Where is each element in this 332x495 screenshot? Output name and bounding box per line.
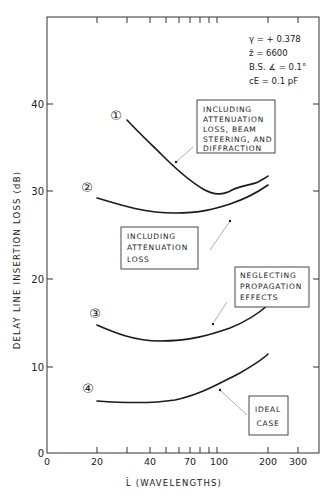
box3-line: EFFECTS [240, 293, 278, 302]
box3-line: NEGLECTING [240, 271, 297, 280]
y-axis-title: DELAY LINE INSERTION LOSS (dB) [12, 171, 22, 349]
param-gamma: γ = + 0.378 [249, 34, 301, 44]
x-tick-300: 300 [289, 456, 307, 467]
leader-arrowheads [175, 161, 231, 391]
x-tick-40: 40 [144, 456, 156, 467]
box1-line: INCLUDING [203, 105, 252, 114]
y-tick-30: 30 [31, 186, 44, 197]
x-tick-70: 70 [184, 456, 196, 467]
annotation-box-4: IDEAL CASE [249, 396, 288, 435]
x-tick-0: 0 [44, 456, 50, 467]
x-tick-200: 200 [259, 456, 277, 467]
marker-4: ④ [82, 381, 94, 396]
curve-3 [97, 305, 268, 341]
box1-line: STEERING, AND [203, 135, 272, 144]
marker-1: ① [110, 108, 122, 123]
box4-line: CASE [256, 419, 279, 428]
y-tick-40: 40 [31, 99, 44, 110]
box4-line: IDEAL [255, 405, 281, 414]
curve-2 [97, 185, 268, 213]
box2-line: ATTENUATION [127, 243, 188, 252]
parameter-legend: γ = + 0.378 ẑ = 6600 B.S. ∡ = 0.1° cE = … [249, 34, 306, 86]
chart: 10 20 30 40 0 0 20 40 70 100 200 300 DEL… [0, 0, 332, 495]
box1-line: ATTENUATION [203, 115, 264, 124]
annotation-box-3: NEGLECTING PROPAGATION EFFECTS [235, 267, 309, 307]
x-tick-labels: 0 20 40 70 100 200 300 [44, 456, 307, 467]
x-tick-20: 20 [91, 456, 103, 467]
param-beam-steering: B.S. ∡ = 0.1° [249, 62, 306, 72]
y-tick-20: 20 [31, 274, 44, 285]
box1-line: DIFFRACTION [203, 144, 262, 153]
y-tick-labels: 10 20 30 40 0 [31, 99, 44, 459]
y-tick-10: 10 [31, 362, 44, 373]
curve-markers: ① ② ③ ④ [81, 108, 122, 396]
curve-4 [97, 354, 268, 403]
param-z: ẑ = 6600 [249, 48, 288, 58]
x-axis-title: L̂ (WAVELENGTHS) [125, 477, 222, 488]
box2-line: INCLUDING [127, 232, 176, 241]
marker-2: ② [81, 180, 93, 195]
marker-3: ③ [89, 306, 101, 321]
annotation-box-1: INCLUDING ATTENUATION LOSS, BEAM STEERIN… [197, 100, 275, 153]
box2-line: LOSS [127, 255, 150, 264]
box1-line: LOSS, BEAM [203, 125, 257, 134]
box3-line: PROPAGATION [240, 282, 302, 291]
annotation-box-2: INCLUDING ATTENUATION LOSS [121, 227, 198, 269]
x-tick-100: 100 [210, 456, 228, 467]
param-ce: cE = 0.1 pF [249, 76, 298, 86]
